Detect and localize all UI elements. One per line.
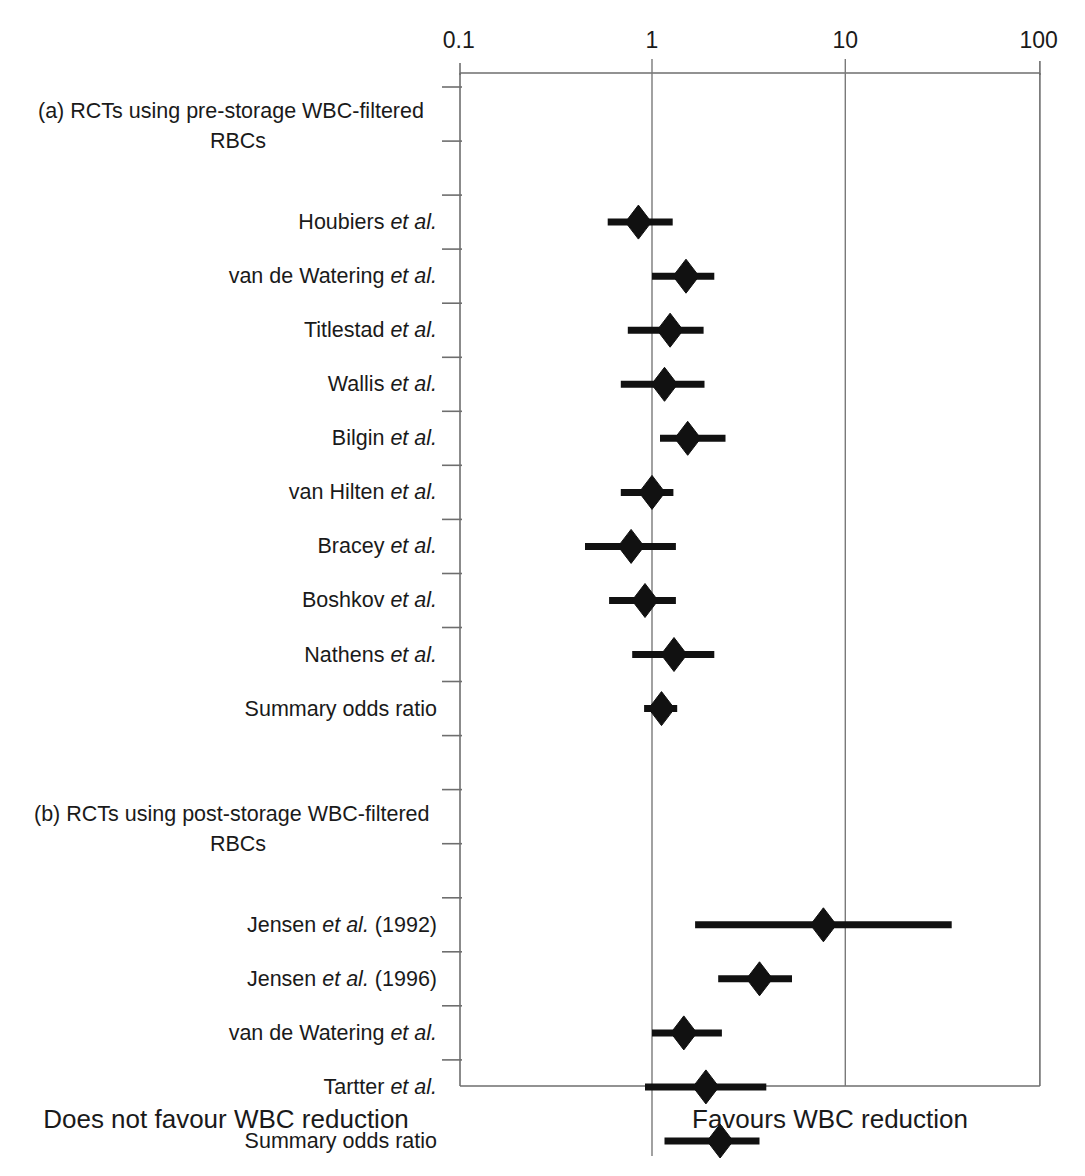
study-label: Jensen et al. (1996) (247, 967, 437, 991)
plot-background (0, 0, 1085, 1176)
study-label: Titlestad et al. (304, 318, 437, 342)
group-heading-b-line1: (b) RCTs using post-storage WBC-filtered (34, 802, 429, 826)
study-label: Wallis et al. (328, 372, 437, 396)
x-tick-label-100: 100 (1019, 27, 1057, 53)
study-label: Tartter et al. (323, 1075, 437, 1099)
x-tick-label-10: 10 (833, 27, 859, 53)
x-tick-label-1: 1 (646, 27, 659, 53)
footer-left-label: Does not favour WBC reduction (43, 1104, 409, 1134)
study-label: Summary odds ratio (245, 697, 437, 721)
study-label: Nathens et al. (304, 643, 437, 667)
footer-right-label: Favours WBC reduction (692, 1104, 968, 1134)
study-label: van de Watering et al. (229, 264, 437, 288)
group-heading-a-line2: RBCs (210, 129, 266, 153)
group-heading-a-line1: (a) RCTs using pre-storage WBC-filtered (38, 99, 424, 123)
study-label: van de Watering et al. (229, 1021, 437, 1045)
study-label: Jensen et al. (1992) (247, 913, 437, 937)
forest-plot: 0.1110100 Houbiers et al.van de Watering… (0, 0, 1085, 1176)
study-label: Bracey et al. (317, 534, 437, 558)
study-label: Houbiers et al. (298, 210, 437, 234)
group-heading-b-line2: RBCs (210, 832, 266, 856)
study-label: van Hilten et al. (289, 480, 437, 504)
x-tick-label-0.1: 0.1 (443, 27, 475, 53)
study-label: Boshkov et al. (302, 588, 437, 612)
study-label: Bilgin et al. (332, 426, 437, 450)
